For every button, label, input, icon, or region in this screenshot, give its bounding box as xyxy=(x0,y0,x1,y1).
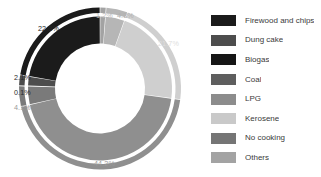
legend-item[interactable]: Coal xyxy=(211,70,321,90)
slice-label-kerosene: 21.7% xyxy=(158,40,179,47)
legend-item[interactable]: LPG xyxy=(211,89,321,109)
legend-item-label: LPG xyxy=(245,95,261,103)
legend-item-label: Kerosene xyxy=(245,115,279,123)
slice-label-coal: 4.1% xyxy=(14,104,31,111)
donut-slice[interactable] xyxy=(115,21,172,98)
slice-label-others: 1.2% xyxy=(96,12,113,19)
legend-swatch xyxy=(211,35,236,46)
slice-label-lpg: 44.2% xyxy=(94,160,115,167)
legend-item-label: Firewood and chips xyxy=(245,17,314,25)
legend-swatch xyxy=(211,54,236,65)
legend-item-label: Dung cake xyxy=(245,36,283,44)
legend-item[interactable]: Others xyxy=(211,148,321,168)
legend-swatch xyxy=(211,74,236,85)
legend-item[interactable]: Kerosene xyxy=(211,109,321,129)
slice-label-dung-cake: 2.1% xyxy=(14,74,31,81)
slice-label-firewood: 22.3% xyxy=(38,25,59,32)
legend-item-label: Coal xyxy=(245,76,261,84)
legend-swatch xyxy=(211,152,236,163)
legend-item[interactable]: Dung cake xyxy=(211,31,321,51)
legend-swatch xyxy=(211,94,236,105)
legend-item[interactable]: Biogas xyxy=(211,50,321,70)
legend-swatch xyxy=(211,133,236,144)
donut-chart-figure: 1.2% 4.3% 21.7% 44.2% 4.1% 0.1% 2.1% 22.… xyxy=(0,0,321,177)
slice-label-no-cooking: 4.3% xyxy=(117,12,134,19)
chart-legend: Firewood and chipsDung cakeBiogasCoalLPG… xyxy=(211,11,321,171)
legend-swatch xyxy=(211,15,236,26)
legend-item-label: Others xyxy=(245,154,269,162)
inner-ring-group xyxy=(28,17,172,161)
donut-chart-plot-area: 1.2% 4.3% 21.7% 44.2% 4.1% 0.1% 2.1% 22.… xyxy=(0,0,200,177)
legend-item[interactable]: Firewood and chips xyxy=(211,11,321,31)
legend-swatch xyxy=(211,113,236,124)
slice-label-biogas: 0.1% xyxy=(14,89,31,96)
legend-item[interactable]: No cooking xyxy=(211,129,321,149)
legend-item-label: No cooking xyxy=(245,134,285,142)
legend-item-label: Biogas xyxy=(245,56,269,64)
